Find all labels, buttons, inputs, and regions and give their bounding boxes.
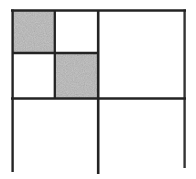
subdivided-square-svg xyxy=(0,0,196,179)
top-left-shaded-cell xyxy=(12,10,55,53)
subdivided-square-figure xyxy=(0,0,196,179)
center-shaded-cell xyxy=(55,53,98,99)
